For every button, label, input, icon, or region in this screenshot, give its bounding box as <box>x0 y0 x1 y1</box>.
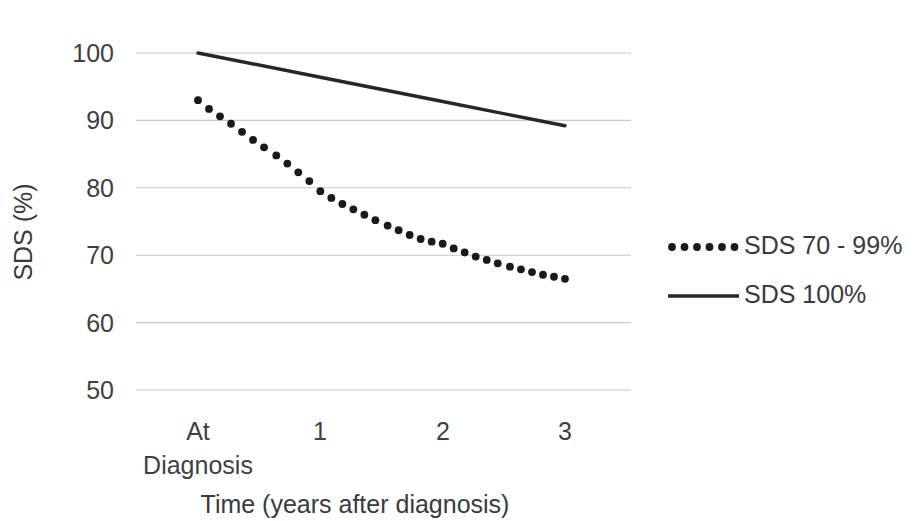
series-marker-sds-70-99 <box>238 128 246 136</box>
series-marker-sds-70-99 <box>483 256 491 264</box>
series-marker-sds-70-99 <box>371 216 379 224</box>
series-marker-sds-70-99 <box>384 222 392 230</box>
series-marker-sds-70-99 <box>528 268 536 276</box>
legend-marker-dotted <box>718 243 726 251</box>
legend-marker-dotted <box>693 243 701 251</box>
series-marker-sds-70-99 <box>439 240 447 248</box>
series-marker-sds-70-99 <box>216 112 224 120</box>
legend-marker-dotted <box>668 243 676 251</box>
series-marker-sds-70-99 <box>461 249 469 257</box>
legend-marker-dotted <box>731 243 739 251</box>
x-tick-label: At <box>186 417 210 445</box>
series-marker-sds-70-99 <box>205 105 213 113</box>
series-marker-sds-70-99 <box>327 194 335 202</box>
y-tick-label: 80 <box>86 174 114 202</box>
chart-canvas: 1009080706050 At123 Diagnosis Time (year… <box>0 0 922 521</box>
series-marker-sds-70-99 <box>450 245 458 253</box>
series-marker-sds-70-99 <box>316 187 324 195</box>
y-tick-label: 70 <box>86 241 114 269</box>
series-marker-sds-70-99 <box>494 259 502 267</box>
y-axis-title: SDS (%) <box>9 183 37 280</box>
y-tick-label: 100 <box>72 39 114 67</box>
series-marker-sds-70-99 <box>294 168 302 176</box>
chart-container: 1009080706050 At123 Diagnosis Time (year… <box>0 0 922 521</box>
x-axis-title: Time (years after diagnosis) <box>201 490 510 518</box>
x-tick-label: 3 <box>558 417 572 445</box>
chart-background <box>0 0 922 521</box>
series-marker-sds-70-99 <box>472 253 480 261</box>
series-marker-sds-70-99 <box>360 211 368 219</box>
series-marker-sds-70-99 <box>395 226 403 234</box>
legend-label: SDS 100% <box>744 280 866 308</box>
series-marker-sds-70-99 <box>349 205 357 213</box>
y-tick-label: 90 <box>86 106 114 134</box>
x-tick-label: 1 <box>313 417 327 445</box>
series-marker-sds-70-99 <box>272 152 280 160</box>
x-tick-sublabel-diagnosis: Diagnosis <box>143 451 253 479</box>
series-marker-sds-70-99 <box>338 200 346 208</box>
x-tick-label: 2 <box>436 417 450 445</box>
series-marker-sds-70-99 <box>417 235 425 243</box>
series-marker-sds-70-99 <box>305 177 313 185</box>
series-marker-sds-70-99 <box>517 265 525 273</box>
y-tick-label: 60 <box>86 309 114 337</box>
series-marker-sds-70-99 <box>227 120 235 128</box>
legend-marker-dotted <box>681 243 689 251</box>
series-marker-sds-70-99 <box>550 273 558 281</box>
y-tick-label: 50 <box>86 376 114 404</box>
series-marker-sds-70-99 <box>283 160 291 168</box>
legend-marker-dotted <box>706 243 714 251</box>
legend-label: SDS 70 - 99% <box>744 231 902 259</box>
series-marker-sds-70-99 <box>406 231 414 239</box>
series-marker-sds-70-99 <box>249 136 257 144</box>
series-marker-sds-70-99 <box>194 96 202 104</box>
series-marker-sds-70-99 <box>260 143 268 151</box>
series-marker-sds-70-99 <box>506 263 514 271</box>
series-marker-sds-70-99 <box>539 271 547 279</box>
series-marker-sds-70-99 <box>428 238 436 246</box>
series-marker-sds-70-99 <box>561 275 569 283</box>
